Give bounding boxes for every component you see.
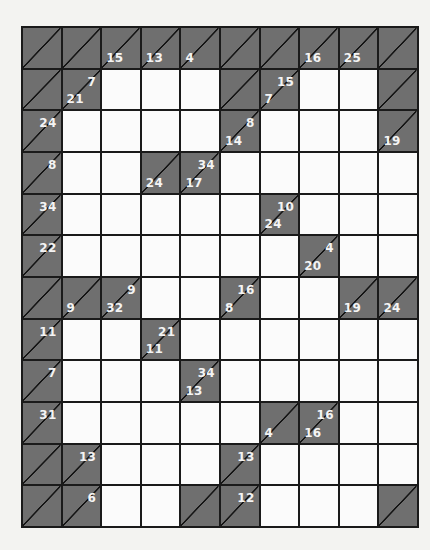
answer-cell[interactable]	[300, 111, 338, 151]
answer-cell[interactable]	[300, 320, 338, 360]
across-sum: 34	[39, 201, 56, 213]
answer-cell[interactable]	[340, 236, 378, 276]
answer-cell[interactable]	[181, 403, 219, 443]
down-sum: 19	[383, 135, 400, 147]
answer-cell[interactable]	[63, 361, 101, 401]
answer-cell[interactable]	[102, 236, 140, 276]
answer-cell[interactable]	[102, 361, 140, 401]
blank-block-cell	[23, 70, 61, 110]
answer-cell[interactable]	[63, 403, 101, 443]
answer-cell[interactable]	[142, 445, 180, 485]
answer-cell[interactable]	[221, 236, 259, 276]
down-sum: 15	[106, 52, 123, 64]
clue-cell: 1616	[300, 403, 338, 443]
answer-cell[interactable]	[261, 236, 299, 276]
answer-cell[interactable]	[379, 153, 417, 193]
answer-cell[interactable]	[340, 361, 378, 401]
answer-cell[interactable]	[102, 445, 140, 485]
answer-cell[interactable]	[261, 278, 299, 318]
across-sum: 22	[39, 242, 56, 254]
answer-cell[interactable]	[181, 320, 219, 360]
answer-cell[interactable]	[181, 70, 219, 110]
answer-cell[interactable]	[261, 361, 299, 401]
answer-cell[interactable]	[102, 195, 140, 235]
answer-cell[interactable]	[261, 153, 299, 193]
answer-cell[interactable]	[181, 195, 219, 235]
down-sum: 4	[265, 427, 274, 439]
across-sum: 12	[237, 492, 254, 504]
clue-cell: 19	[379, 111, 417, 151]
answer-cell[interactable]	[340, 153, 378, 193]
answer-cell[interactable]	[261, 486, 299, 526]
answer-cell[interactable]	[221, 403, 259, 443]
answer-cell[interactable]	[379, 403, 417, 443]
answer-cell[interactable]	[63, 236, 101, 276]
across-sum: 8	[48, 159, 57, 171]
answer-cell[interactable]	[300, 70, 338, 110]
answer-cell[interactable]	[142, 278, 180, 318]
answer-cell[interactable]	[379, 361, 417, 401]
blank-block-cell	[221, 70, 259, 110]
answer-cell[interactable]	[300, 278, 338, 318]
answer-cell[interactable]	[102, 70, 140, 110]
answer-cell[interactable]	[142, 361, 180, 401]
clue-cell: 4	[181, 28, 219, 68]
answer-cell[interactable]	[181, 236, 219, 276]
answer-cell[interactable]	[379, 445, 417, 485]
answer-cell[interactable]	[142, 486, 180, 526]
answer-cell[interactable]	[63, 111, 101, 151]
answer-cell[interactable]	[142, 403, 180, 443]
answer-cell[interactable]	[102, 486, 140, 526]
answer-cell[interactable]	[221, 361, 259, 401]
answer-cell[interactable]	[340, 111, 378, 151]
down-sum: 19	[344, 302, 361, 314]
answer-cell[interactable]	[340, 445, 378, 485]
answer-cell[interactable]	[142, 70, 180, 110]
answer-cell[interactable]	[379, 320, 417, 360]
blank-block-cell	[221, 28, 259, 68]
down-sum: 21	[67, 93, 84, 105]
answer-cell[interactable]	[63, 195, 101, 235]
answer-cell[interactable]	[63, 153, 101, 193]
clue-cell: 932	[102, 278, 140, 318]
answer-cell[interactable]	[261, 445, 299, 485]
answer-cell[interactable]	[221, 320, 259, 360]
answer-cell[interactable]	[300, 361, 338, 401]
answer-cell[interactable]	[340, 486, 378, 526]
answer-cell[interactable]	[300, 195, 338, 235]
answer-cell[interactable]	[261, 111, 299, 151]
answer-cell[interactable]	[102, 403, 140, 443]
answer-cell[interactable]	[221, 195, 259, 235]
answer-cell[interactable]	[379, 195, 417, 235]
across-sum: 24	[39, 117, 56, 129]
answer-cell[interactable]	[142, 236, 180, 276]
answer-cell[interactable]	[300, 445, 338, 485]
clue-cell: 4	[261, 403, 299, 443]
answer-cell[interactable]	[340, 403, 378, 443]
down-sum: 25	[344, 52, 361, 64]
answer-cell[interactable]	[261, 320, 299, 360]
answer-cell[interactable]	[102, 153, 140, 193]
down-sum: 32	[106, 302, 123, 314]
answer-cell[interactable]	[142, 195, 180, 235]
across-sum: 11	[39, 326, 56, 338]
blank-block-cell	[379, 486, 417, 526]
answer-cell[interactable]	[340, 70, 378, 110]
answer-cell[interactable]	[181, 445, 219, 485]
blank-block-cell	[23, 486, 61, 526]
answer-cell[interactable]	[340, 195, 378, 235]
clue-cell: 9	[63, 278, 101, 318]
answer-cell[interactable]	[379, 236, 417, 276]
answer-cell[interactable]	[340, 320, 378, 360]
answer-cell[interactable]	[142, 111, 180, 151]
answer-cell[interactable]	[102, 111, 140, 151]
answer-cell[interactable]	[221, 153, 259, 193]
answer-cell[interactable]	[300, 486, 338, 526]
clue-cell: 814	[221, 111, 259, 151]
answer-cell[interactable]	[181, 278, 219, 318]
answer-cell[interactable]	[181, 111, 219, 151]
answer-cell[interactable]	[300, 153, 338, 193]
answer-cell[interactable]	[102, 320, 140, 360]
down-sum: 13	[185, 385, 202, 397]
answer-cell[interactable]	[63, 320, 101, 360]
